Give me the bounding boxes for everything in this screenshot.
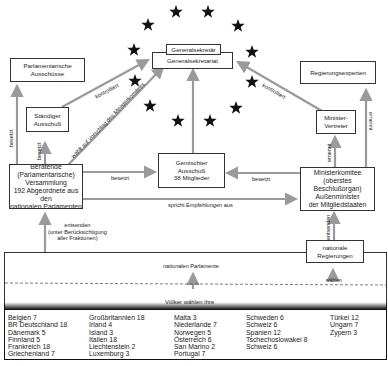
voelker-label: Völker wählen ihre <box>165 299 214 306</box>
entsenden-right-label: entsenden <box>325 215 331 240</box>
table-cell: Griechenland 7 <box>8 350 67 357</box>
ministerkomitee-line2: (oberstes Beschlußorgan) <box>301 177 374 193</box>
regierungsexperten-label: Regierungsexperten <box>310 69 366 77</box>
table-cell: San Marino 2 <box>174 343 217 350</box>
beratende-line3: Versammlung <box>25 179 67 187</box>
staendiger-ausschuss-box: Ständiger Ausschuß <box>26 107 69 132</box>
ministerkomitee-line3: Außenminister <box>316 193 360 201</box>
entsenden-left-label: entsenden (unter Berücksichtigung aller … <box>48 222 107 242</box>
table-cell: Türkei 12 <box>330 314 359 321</box>
beratende-line2: (Parlamentarische) <box>17 171 74 179</box>
nationale-regierungen-box: nationale Regierungen <box>306 240 364 263</box>
parlamentarische-ausschuesse-box: Parlamentarische Ausschüsse <box>10 58 85 82</box>
member-states-table: Belgien 7 BR Deutschland 18 Dänemark 5 F… <box>4 309 387 360</box>
table-cell: Dänemark 5 <box>8 329 67 336</box>
table-cell: Liechtenstein 2 <box>89 343 145 350</box>
table-cell: Malta 3 <box>174 314 217 321</box>
table-cell: Schweiz 6 <box>246 343 307 350</box>
gemischter-ausschuss-box: Gemischter Ausschuß 38 Mitglieder <box>158 153 225 188</box>
staendiger-line2: Ausschuß <box>34 120 62 128</box>
table-cell: Finnland 5 <box>8 336 67 343</box>
ministerkomitee-line4: der Mitgliedstaaten <box>309 201 366 209</box>
minister-vertreter-line2: Vertreter <box>324 122 348 130</box>
table-cell: BR Deutschland 18 <box>8 321 67 328</box>
table-cell: Spanien 12 <box>246 329 307 336</box>
nationale-parlamente-label: nationalen Parlamente <box>163 263 219 270</box>
table-cell: Norwegen 5 <box>174 329 217 336</box>
beratende-line1: Beratende <box>30 163 61 171</box>
generalsekretaer-label: Generalsekretär <box>171 46 215 54</box>
table-cell: Portugal 7 <box>174 350 217 357</box>
regierungsexperten-box: Regierungsexperten <box>300 61 376 84</box>
table-column-1: Belgien 7 BR Deutschland 18 Dänemark 5 F… <box>8 314 67 358</box>
table-column-4: Schweden 6 Schweiz 6 Spanien 12 Tschecho… <box>246 314 307 350</box>
besetzt-inner-label: besetzt <box>36 143 42 160</box>
table-cell: Zypern 3 <box>330 329 359 336</box>
table-cell: Schweden 6 <box>246 314 307 321</box>
ernennt-inner-label: ernennt <box>326 144 332 162</box>
parl-ausschuesse-line2: Ausschüsse <box>31 70 64 78</box>
nat-reg-line1: nationale <box>322 244 347 252</box>
gemischter-line1: Gemischter <box>176 159 208 167</box>
parl-ausschuesse-line1: Parlamentarische <box>23 62 71 70</box>
table-cell: Niederlande 7 <box>174 321 217 328</box>
table-column-2: Großbritannien 18 Irland 4 Island 3 Ital… <box>89 314 145 358</box>
table-cell: Tschechoslowakei 8 <box>246 336 307 343</box>
table-cell: Belgien 7 <box>8 314 67 321</box>
staendiger-line1: Ständiger <box>34 112 61 120</box>
beratende-versammlung-box: Beratende (Parlamentarische) Versammlung… <box>9 164 83 209</box>
gemischter-line3: 38 Mitglieder <box>174 174 209 182</box>
table-cell: Frankreich 18 <box>8 343 67 350</box>
minister-vertreter-box: Minister- Vertreter <box>316 110 356 134</box>
entsenden-line3: aller Fraktionen) <box>48 235 107 242</box>
beratende-line4: 192 Abgeordnete aus den <box>10 187 82 203</box>
ministerkomitee-line1: Ministerkomitee <box>314 169 362 177</box>
besetzt-center-right-label: besetzt <box>252 176 270 183</box>
waehlen-label: wählen <box>326 277 342 284</box>
table-cell: Irland 4 <box>89 321 145 328</box>
besetzt-center-left-label: besetzt <box>111 175 129 182</box>
table-column-3: Malta 3 Niederlande 7 Norwegen 5 Österre… <box>174 314 217 358</box>
ministerkomitee-box: Ministerkomitee (oberstes Beschlußorgan)… <box>300 167 375 211</box>
table-cell: Italien 18 <box>89 336 145 343</box>
table-cell: Ungarn 7 <box>330 321 359 328</box>
ernennt-outer-label: ernennt <box>368 112 374 130</box>
table-cell: Luxemburg 3 <box>89 350 145 357</box>
table-cell: Österreich 6 <box>174 336 217 343</box>
generalsekretaer-box: Generalsekretär <box>166 44 221 55</box>
table-cell: Großbritannien 18 <box>89 314 145 321</box>
table-column-5: Türkei 12 Ungarn 7 Zypern 3 <box>330 314 359 336</box>
minister-vertreter-line1: Minister- <box>324 114 348 122</box>
generalsekretariat-label: Generalsekretariat <box>167 57 218 65</box>
nat-reg-line2: Regierungen <box>317 252 352 260</box>
besetzt-outer-label: besetzt <box>8 130 14 147</box>
spricht-label: spricht Empfehlungen aus <box>168 202 233 209</box>
beratende-line5: nationalen Parlamenten <box>10 203 82 211</box>
table-cell: Island 3 <box>89 329 145 336</box>
table-cell: Schweiz 6 <box>246 321 307 328</box>
gemischter-line2: Ausschuß <box>178 167 206 175</box>
